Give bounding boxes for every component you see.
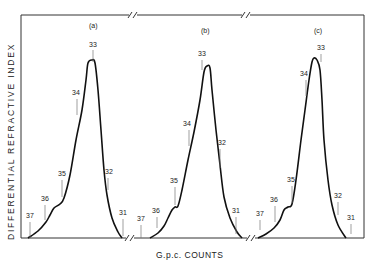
count-marker-label: 37 <box>256 210 264 217</box>
count-marker-label: 31 <box>347 214 355 221</box>
panel-label: (c) <box>314 27 322 35</box>
count-marker-label: 37 <box>137 215 145 222</box>
panel-b: (b)37363534333231 <box>137 27 242 238</box>
panel-label: (b) <box>201 27 210 35</box>
count-marker-label: 32 <box>218 139 226 146</box>
elution-curve <box>28 60 122 238</box>
count-marker-label: 33 <box>89 41 97 48</box>
y-axis-label: DIFFERENTIAL REFRACTIVE INDEX <box>6 44 16 240</box>
count-marker-label: 37 <box>26 212 34 219</box>
count-marker-label: 35 <box>287 176 295 183</box>
count-marker-label: 34 <box>300 70 308 77</box>
count-marker-label: 32 <box>334 192 342 199</box>
elution-curve <box>258 58 346 238</box>
count-marker-label: 31 <box>232 207 240 214</box>
count-marker-label: 31 <box>119 209 127 216</box>
count-marker-label: 34 <box>183 120 191 127</box>
count-marker-label: 36 <box>41 195 49 202</box>
count-marker-label: 35 <box>170 177 178 184</box>
panel-label: (a) <box>89 22 98 30</box>
count-marker-label: 33 <box>317 44 325 51</box>
axes-frame <box>21 15 364 238</box>
panel-c: (c)37363534333231 <box>256 27 355 238</box>
elution-curve <box>150 65 242 238</box>
x-axis-label: G.p.c. COUNTS <box>156 250 223 260</box>
count-marker-label: 36 <box>270 196 278 203</box>
count-marker-label: 32 <box>105 168 113 175</box>
count-marker-label: 35 <box>58 170 66 177</box>
count-marker-label: 36 <box>152 207 160 214</box>
count-marker-label: 34 <box>72 89 80 96</box>
count-marker-label: 33 <box>198 50 206 57</box>
panel-a: (a)37363534333231 <box>26 22 127 238</box>
gpc-chart: DIFFERENTIAL REFRACTIVE INDEX G.p.c. COU… <box>0 0 373 265</box>
